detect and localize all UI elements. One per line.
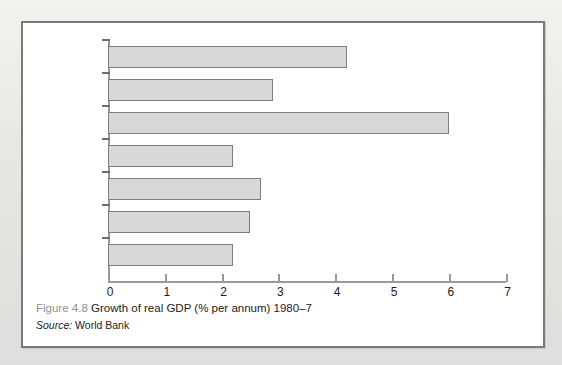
x-axis-tick (108, 274, 110, 282)
y-axis-tick (102, 204, 110, 206)
figure-number: Figure 4.8 (36, 302, 88, 314)
bar-chart-plot-area: 01234567 IrelandUSEast AsiaEUJapanOECDUK (23, 23, 543, 285)
figure-panel: 01234567 IrelandUSEast AsiaEUJapanOECDUK… (21, 21, 545, 348)
figure-caption: Figure 4.8 Growth of real GDP (% per ann… (36, 301, 536, 332)
bar-japan (108, 178, 261, 200)
x-axis-tick-label: 2 (209, 285, 239, 299)
y-axis-tick (102, 171, 110, 173)
x-axis-tick (222, 274, 224, 282)
y-axis-tick (102, 72, 110, 74)
y-axis-tick (102, 237, 110, 239)
x-axis-tick-label: 0 (95, 285, 125, 299)
x-axis-tick (392, 274, 394, 282)
x-axis-tick-label: 4 (322, 285, 352, 299)
source-label: Source: (36, 319, 72, 331)
x-axis-line (108, 281, 506, 283)
figure-page: 01234567 IrelandUSEast AsiaEUJapanOECDUK… (0, 0, 562, 365)
bar-eu (108, 145, 233, 167)
bar-uk (108, 244, 233, 266)
caption-line: Figure 4.8 Growth of real GDP (% per ann… (36, 301, 536, 316)
bar-ireland (108, 46, 347, 68)
y-axis-tick (102, 138, 110, 140)
x-axis-tick (506, 274, 508, 282)
bar-oecd (108, 211, 250, 233)
source-value: World Bank (75, 319, 129, 331)
x-axis-tick-label: 5 (379, 285, 409, 299)
x-axis-tick (449, 274, 451, 282)
bar-us (108, 79, 273, 101)
y-axis-tick (102, 105, 110, 107)
x-axis-tick (278, 274, 280, 282)
caption-title: Growth of real GDP (% per annum) 1980–7 (91, 302, 312, 314)
x-axis-tick (335, 274, 337, 282)
x-axis-tick (165, 274, 167, 282)
x-axis-tick-label: 6 (436, 285, 466, 299)
bar-east-asia (108, 112, 449, 134)
y-axis-tick (102, 39, 110, 41)
source-line: Source: World Bank (36, 318, 536, 332)
x-axis-tick-label: 3 (265, 285, 295, 299)
x-axis-tick-label: 7 (493, 285, 523, 299)
x-axis-tick-label: 1 (152, 285, 182, 299)
